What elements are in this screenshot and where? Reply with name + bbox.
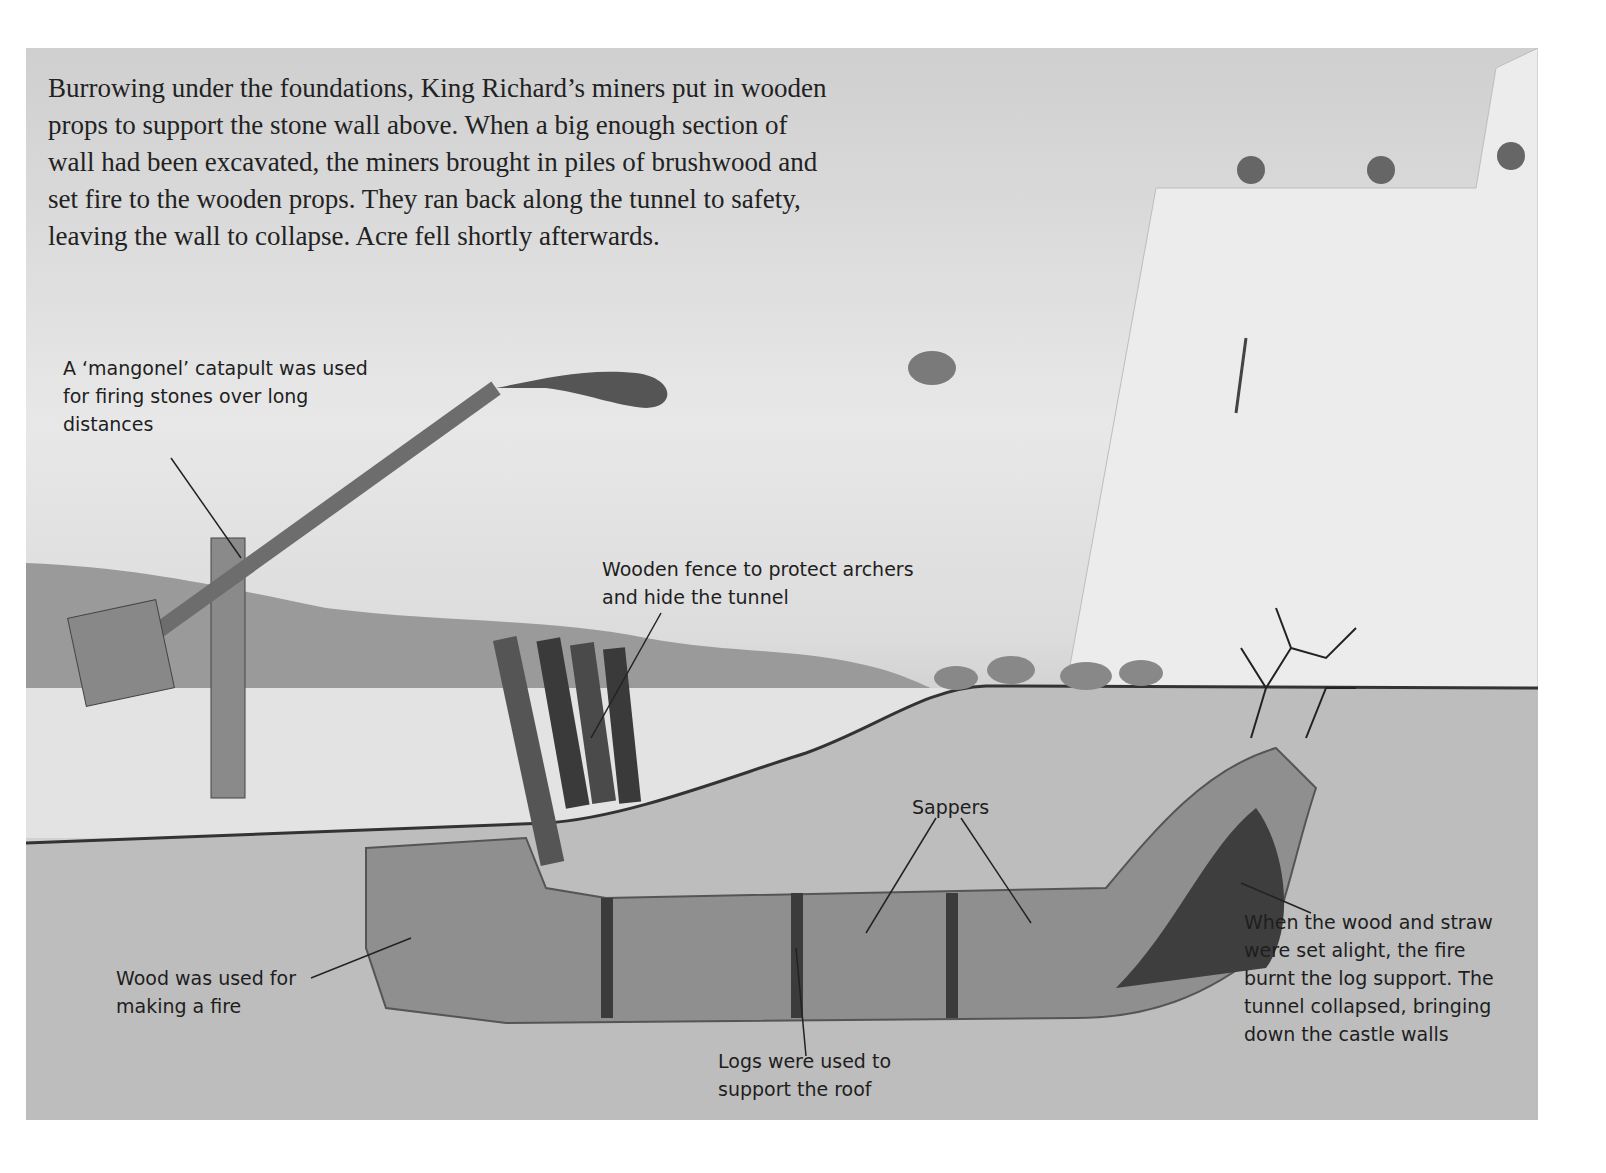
boulder bbox=[1060, 662, 1112, 690]
log-prop bbox=[601, 898, 613, 1018]
boulder bbox=[934, 666, 978, 690]
flying-stone bbox=[908, 351, 956, 385]
intro-caption: Burrowing under the foundations, King Ri… bbox=[48, 70, 828, 255]
catapult-counterweight bbox=[68, 600, 175, 707]
catapult-sling bbox=[496, 372, 667, 408]
boulder bbox=[987, 656, 1035, 684]
castle-wall bbox=[1066, 48, 1538, 698]
label-fire-collapse: When the wood and straw were set alight,… bbox=[1244, 908, 1514, 1048]
label-wood: Wood was used for making a fire bbox=[116, 964, 316, 1020]
archer-on-wall bbox=[1237, 156, 1265, 184]
label-fence: Wooden fence to protect archers and hide… bbox=[602, 555, 922, 611]
archer-on-wall bbox=[1367, 156, 1395, 184]
archer-on-wall bbox=[1497, 142, 1525, 170]
label-sappers: Sappers bbox=[912, 793, 1032, 821]
label-logs: Logs were used to support the roof bbox=[718, 1047, 938, 1103]
illustration-frame: Burrowing under the foundations, King Ri… bbox=[26, 48, 1538, 1120]
label-mangonel: A ‘mangonel’ catapult was used for firin… bbox=[63, 354, 383, 438]
boulder bbox=[1119, 660, 1163, 686]
log-prop bbox=[946, 893, 958, 1018]
